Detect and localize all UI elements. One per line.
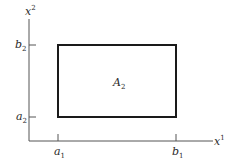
tick-label-b2: b2	[15, 38, 27, 53]
diagram-canvas: x2 x1 b2 a2 a1 b1 A2	[0, 0, 236, 166]
y-axis-label: x2	[25, 4, 36, 18]
tick-label-a1: a1	[54, 145, 65, 160]
tick-label-b1: b1	[172, 145, 184, 160]
tick-label-a2: a2	[16, 110, 27, 125]
x-axis-label: x1	[214, 134, 225, 148]
region-label: A2	[112, 76, 125, 91]
